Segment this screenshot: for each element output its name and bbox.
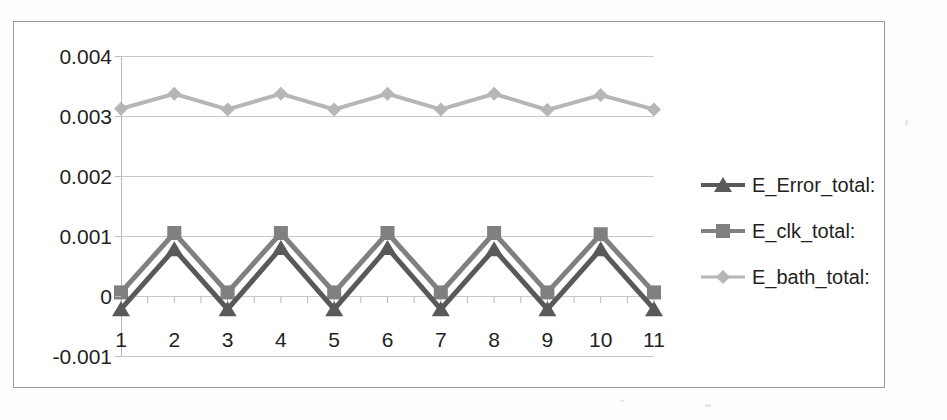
x-tick-label: 1 [115,329,127,350]
data-point-marker [167,226,181,240]
chart-frame: 0.0040.0030.0020.0010-0.001 123456789101… [13,21,885,388]
data-point-marker [114,102,128,116]
data-point-marker [434,285,448,299]
legend-item[interactable]: E_clk_total: [700,208,900,254]
x-tick-label: 10 [589,329,612,350]
y-axis-labels: 0.0040.0030.0020.0010-0.001 [32,56,112,356]
legend-marker-diamond-icon [700,266,746,288]
data-point-marker [540,103,554,117]
scan-speck [905,120,908,125]
x-tick-label: 2 [168,329,180,350]
data-point-marker [594,227,608,241]
x-tick-label: 11 [643,329,665,350]
data-point-marker [594,88,608,102]
legend-label: E_clk_total: [752,220,855,243]
series-e-error-total- [112,240,663,316]
y-tick-mark [115,176,121,177]
data-point-marker [274,87,288,101]
y-tick-label: 0.002 [59,166,112,187]
legend-label: E_Error_total: [752,174,875,197]
data-point-marker [647,102,661,116]
data-point-marker [487,226,501,240]
x-tick-label: 8 [488,329,500,350]
legend-marker-square-icon [700,220,746,242]
data-point-marker [274,226,288,240]
data-point-marker [647,285,661,299]
scan-speck [620,400,624,402]
data-point-marker [167,87,181,101]
data-point-marker [221,102,235,116]
legend-label: E_bath_total: [752,266,870,289]
y-tick-label: 0.004 [59,46,112,67]
y-tick-label: 0 [100,286,112,307]
data-point-marker [221,285,235,299]
y-tick-mark [115,236,121,237]
series-canvas [121,56,654,356]
plot-area [121,56,654,356]
x-axis-labels: 1234567891011 [121,329,654,359]
data-point-marker [327,285,341,299]
series-e-clk-total- [114,226,661,299]
legend-item[interactable]: E_bath_total: [700,254,900,300]
x-tick-label: 7 [435,329,447,350]
y-tick-label: 0.001 [59,226,112,247]
y-tick-mark [115,56,121,57]
legend-marker-triangle-icon [700,174,746,196]
data-point-marker [540,285,554,299]
x-tick-label: 5 [328,329,340,350]
data-point-marker [381,87,395,101]
data-point-marker [434,102,448,116]
y-tick-label: -0.001 [52,346,112,367]
x-tick-label: 6 [382,329,394,350]
chart-legend: E_Error_total:E_clk_total:E_bath_total: [700,162,900,300]
scanned-page: 0.0040.0030.0020.0010-0.001 123456789101… [0,0,947,420]
x-tick-label: 3 [222,329,234,350]
data-point-marker [716,224,730,238]
series-e-bath-total- [114,87,661,117]
data-point-marker [381,226,395,240]
data-point-marker [487,87,501,101]
data-point-marker [716,270,730,284]
y-tick-mark [115,116,121,117]
x-tick-label: 9 [542,329,554,350]
x-tick-label: 4 [275,329,287,350]
data-point-marker [327,102,341,116]
y-tick-mark [115,296,121,297]
legend-item[interactable]: E_Error_total: [700,162,900,208]
scan-speck [705,404,711,407]
data-point-marker [114,285,128,299]
y-tick-label: 0.003 [59,106,112,127]
